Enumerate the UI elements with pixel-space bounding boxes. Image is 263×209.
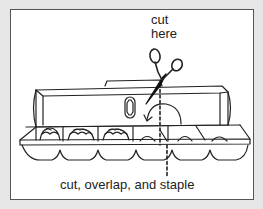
cut-here-line2: here [151,27,177,41]
filled-egg-cups [40,128,129,140]
scissors-icon [146,48,184,104]
cut-here-line1: cut [151,13,177,27]
bottom-caption: cut, overlap, and staple [60,178,194,192]
carton-lid [34,86,231,127]
cut-here-label: cut here [151,13,177,41]
curved-fold-arrow [144,104,181,124]
dashed-cut-line [160,84,167,176]
carton-logo-icon [125,97,135,118]
carton-tray [20,125,250,160]
lid-tab [105,80,162,86]
